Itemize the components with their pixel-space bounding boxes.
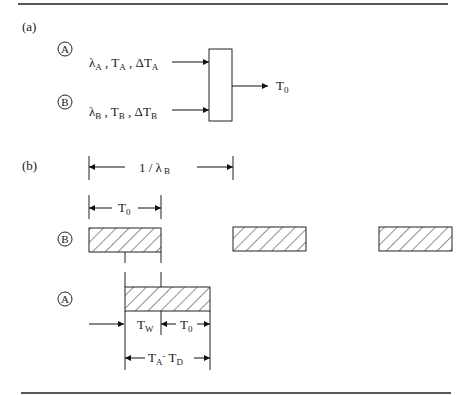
timing-diagram: (a) A λA , TA , ΔTA B λB , TB , ΔTB T0 (… (0, 0, 474, 395)
t0-dim-label: T0 (118, 200, 131, 217)
svg-text:B: B (61, 233, 68, 245)
svg-text:B: B (61, 96, 68, 108)
input-a-params: λA , TA , ΔTA (89, 55, 159, 72)
tw-label: TW (137, 317, 154, 334)
row-a-circle-icon: A (58, 292, 72, 306)
panel-b-label: (b) (22, 158, 37, 173)
row-b-pulse-1 (89, 228, 161, 252)
row-b-pulse-2 (233, 227, 306, 251)
row-a-pulse (125, 287, 210, 311)
panel-a-label: (a) (22, 19, 36, 34)
svg-text:A: A (61, 293, 69, 305)
row-b-circle-icon: B (58, 232, 72, 246)
output-t0-label: T0 (276, 78, 289, 95)
t0-right-label: T0 (180, 317, 193, 334)
process-block (209, 49, 232, 121)
input-b-params: λB , TB , ΔTB (89, 104, 157, 121)
ta-td-label: TA- TD (148, 350, 183, 367)
svg-text:A: A (61, 43, 69, 55)
row-b-pulse-3 (379, 227, 452, 251)
circle-b-icon: B (58, 95, 72, 109)
period-label: 1 / λB (139, 160, 170, 176)
circle-a-icon: A (58, 42, 72, 56)
